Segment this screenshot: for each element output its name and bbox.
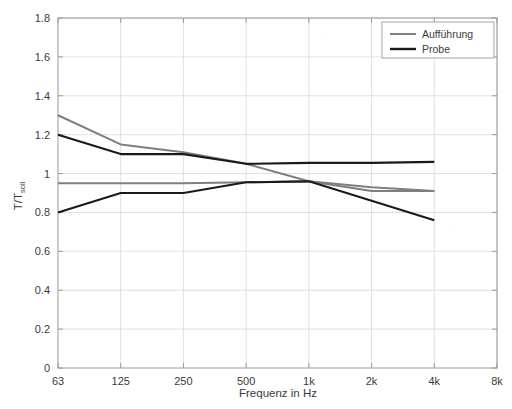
y-tick-label: 1.6	[35, 51, 50, 63]
reverberation-tolerance-line-chart: 00.20.40.60.811.21.41.61.8 631252505001k…	[0, 0, 512, 409]
chart-background	[0, 0, 512, 409]
y-tick-label: 1.4	[35, 90, 50, 102]
x-tick-label: 250	[174, 375, 192, 387]
x-axis-title: Frequenz in Hz	[239, 387, 317, 399]
y-tick-label: 0	[44, 362, 50, 374]
y-tick-label: 0.6	[35, 245, 50, 257]
x-tick-label: 4k	[428, 375, 440, 387]
x-axis-title-text: Frequenz in Hz	[239, 387, 317, 399]
x-tick-label: 1k	[303, 375, 315, 387]
legend-label-probe[interactable]: Probe	[422, 43, 450, 55]
x-tick-label: 2k	[366, 375, 378, 387]
y-tick-label: 1.2	[35, 129, 50, 141]
chart-container: 00.20.40.60.811.21.41.61.8 631252505001k…	[0, 0, 512, 409]
y-tick-label: 0.4	[35, 284, 50, 296]
x-tick-label: 8k	[491, 375, 503, 387]
legend[interactable]: AufführungProbe	[382, 22, 494, 58]
legend-label-auffuehrung[interactable]: Aufführung	[422, 28, 473, 40]
y-tick-label: 1.8	[35, 12, 50, 24]
y-tick-label: 0.8	[35, 206, 50, 218]
x-tick-label: 63	[52, 375, 64, 387]
x-tick-label: 500	[237, 375, 255, 387]
x-tick-label: 125	[112, 375, 130, 387]
y-tick-label: 0.2	[35, 323, 50, 335]
y-tick-label: 1	[44, 168, 50, 180]
